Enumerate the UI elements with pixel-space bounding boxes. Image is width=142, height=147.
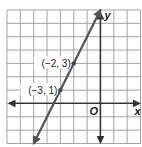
y-axis-label: y: [103, 9, 111, 21]
point-label: (−2, 3): [42, 58, 71, 69]
grid-lines: [7, 10, 141, 144]
origin-label: O: [89, 105, 98, 117]
axes: [9, 13, 140, 144]
x-axis-label: x: [134, 105, 142, 117]
point-label: (−3, 1): [28, 85, 57, 96]
point-marker: [58, 88, 62, 92]
coordinate-plane: (−2, 3)(−3, 1) x y O: [0, 0, 142, 147]
point-marker: [72, 61, 76, 65]
